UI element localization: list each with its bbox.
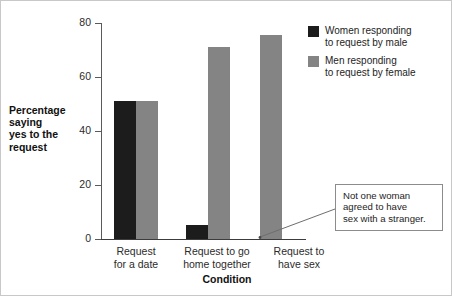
legend-item-women: Women responding to request by male: [308, 25, 448, 48]
legend: Women responding to request by male Men …: [308, 25, 448, 85]
y-tick-0: [95, 239, 101, 240]
y-tick-label-20: 20: [57, 178, 91, 190]
annotation-callout: Not one woman agreed to have sex with a …: [335, 184, 443, 231]
x-axis-line: [101, 239, 306, 240]
x-label-request-to-have-sex: Request to have sex: [259, 245, 339, 270]
legend-swatch-women-icon: [308, 26, 319, 37]
y-tick-label-80: 80: [57, 16, 91, 28]
legend-label-men: Men responding to request by female: [325, 55, 416, 78]
plot-area: [101, 23, 301, 239]
bar-women-request-to-go-home-together: [186, 225, 208, 239]
y-tick-label-0: 0: [57, 232, 91, 244]
chart-screenshot: Percentage saying yes to the request 80 …: [0, 0, 452, 296]
bar-men-request-to-go-home-together: [208, 47, 230, 239]
x-label-request-for-a-date: Request for a date: [99, 245, 173, 270]
legend-label-women: Women responding to request by male: [325, 25, 412, 48]
x-label-request-to-go-home-together: Request to go home together: [173, 245, 261, 270]
bar-men-request-for-a-date: [136, 101, 158, 239]
x-axis-title: Condition: [1, 273, 452, 285]
bar-women-request-for-a-date: [114, 101, 136, 239]
bar-men-request-to-have-sex: [260, 35, 282, 239]
legend-item-men: Men responding to request by female: [308, 55, 448, 78]
y-tick-label-40: 40: [57, 124, 91, 136]
y-tick-label-60: 60: [57, 70, 91, 82]
legend-swatch-men-icon: [308, 56, 319, 67]
